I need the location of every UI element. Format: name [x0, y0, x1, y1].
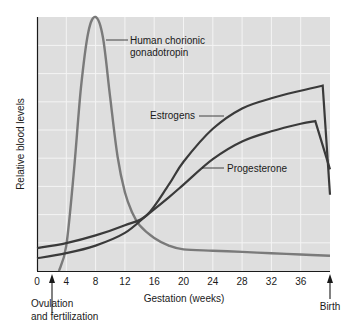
x-tick-label: 32 — [266, 276, 278, 287]
birth-label: Birth — [320, 301, 341, 312]
birth-arrowhead-icon — [327, 274, 333, 283]
hcg-label-line1: Human chorionic — [130, 35, 205, 46]
x-tick-labels: 04812162024283236 — [34, 276, 306, 287]
x-tick-label: 4 — [64, 276, 70, 287]
x-tick-label: 16 — [149, 276, 161, 287]
ovulation-label-line2: and fertilization — [31, 311, 98, 322]
hcg-label-line2: gonadotropin — [130, 47, 188, 58]
x-tick-label: 20 — [178, 276, 190, 287]
x-tick-label: 12 — [119, 276, 131, 287]
x-axis-label: Gestation (weeks) — [144, 293, 225, 304]
x-tick-label: 24 — [207, 276, 219, 287]
ovulation-arrowhead-icon — [49, 274, 55, 283]
hormone-levels-chart: 04812162024283236 Relative blood levels … — [0, 0, 359, 334]
y-axis-label: Relative blood levels — [15, 98, 26, 190]
x-tick-label: 0 — [34, 276, 40, 287]
x-tick-label: 36 — [295, 276, 307, 287]
estrogens-label: Estrogens — [150, 110, 195, 121]
progesterone-label: Progesterone — [227, 163, 287, 174]
x-tick-label: 28 — [237, 276, 249, 287]
x-tick-label: 8 — [93, 276, 99, 287]
ovulation-label-line1: Ovulation — [31, 298, 73, 309]
